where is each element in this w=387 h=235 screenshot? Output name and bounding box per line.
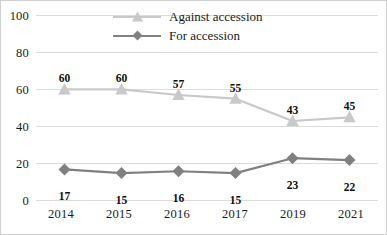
data-label: 22	[330, 182, 370, 194]
x-tick-2017: 2017	[205, 208, 265, 221]
data-label: 57	[159, 79, 199, 91]
legend-label-against: Against accession	[169, 7, 263, 26]
y-tick-80: 80	[0, 47, 29, 60]
data-label: 45	[330, 101, 370, 113]
line-for-accession	[65, 158, 350, 173]
data-label: 60	[102, 73, 142, 85]
y-tick-20: 20	[0, 158, 29, 171]
legend-label-for: For accession	[169, 26, 240, 45]
y-tick-40: 40	[0, 121, 29, 134]
x-tick-2014: 2014	[31, 208, 91, 221]
y-tick-60: 60	[0, 84, 29, 97]
data-label: 15	[102, 195, 142, 207]
data-label: 16	[159, 193, 199, 205]
x-tick-2016: 2016	[147, 208, 207, 221]
x-tick-2015: 2015	[89, 208, 149, 221]
x-tick-2019: 2019	[263, 208, 323, 221]
x-tick-2021: 2021	[321, 208, 381, 221]
data-label: 23	[273, 180, 313, 192]
data-label: 60	[45, 73, 85, 85]
line-chart: 100 80 60 40 20 0 606057554345 171516152…	[0, 0, 387, 235]
data-label: 43	[273, 105, 313, 117]
data-label: 15	[216, 195, 256, 207]
y-tick-100: 100	[0, 10, 29, 23]
legend-item-for-accession: For accession	[113, 26, 303, 45]
data-label: 17	[45, 191, 85, 203]
data-label: 55	[216, 83, 256, 95]
triangle-icon	[131, 10, 144, 23]
chart-legend: Against accession For accession	[113, 7, 303, 45]
markers-for-accession	[59, 152, 356, 179]
diamond-icon	[131, 29, 144, 42]
y-tick-0: 0	[0, 195, 29, 208]
legend-item-against-accession: Against accession	[113, 7, 303, 26]
